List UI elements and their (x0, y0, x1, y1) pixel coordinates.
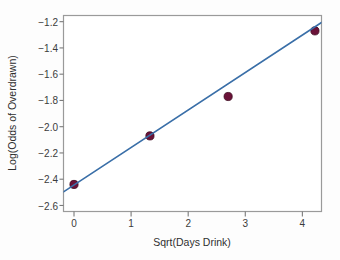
x-axis-tick-label: 4 (300, 218, 306, 229)
y-axis-tick-label: −1.8 (14, 95, 58, 106)
x-axis-tick-label: 3 (243, 218, 249, 229)
y-axis-tick-label: −2.2 (14, 147, 58, 158)
x-axis-tick-label: 2 (185, 218, 191, 229)
x-axis-title: Sqrt(Days Drink) (153, 236, 231, 248)
y-axis-title: Log(Odds of Overdrawn) (6, 55, 18, 171)
scatter-plot-figure: −1.2−1.4−1.6−1.8−2.0−2.2−2.4−2.601234 Sq… (0, 0, 340, 260)
y-axis-tick-label: −2.4 (14, 174, 58, 185)
y-axis-tick-label: −1.6 (14, 69, 58, 80)
data-point-marker (224, 92, 232, 100)
plot-frame (64, 16, 322, 212)
y-axis-tick-label: −2.6 (14, 200, 58, 211)
y-axis-tick-label: −1.2 (14, 16, 58, 27)
x-axis-tick-label: 0 (71, 218, 77, 229)
x-axis-tick-label: 1 (128, 218, 134, 229)
y-axis-tick-label: −1.4 (14, 42, 58, 53)
y-axis-tick-label: −2.0 (14, 121, 58, 132)
